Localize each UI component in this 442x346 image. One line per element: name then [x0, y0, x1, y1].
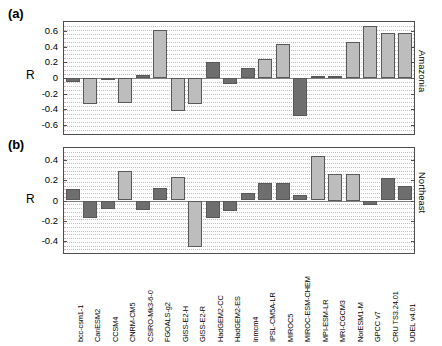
gridline [64, 223, 414, 224]
bar [83, 78, 97, 104]
panel-a-label: (a) [8, 6, 23, 21]
y-tick-mark [63, 94, 67, 95]
gridline [64, 163, 414, 164]
bar [188, 78, 202, 104]
gridline [64, 90, 414, 91]
y-tick-mark [63, 47, 67, 48]
bar [346, 174, 360, 200]
gridline [64, 246, 414, 247]
gridline [64, 174, 414, 175]
bar [381, 33, 395, 78]
y-tick-mark-right [411, 241, 415, 242]
gridline [64, 34, 414, 35]
y-tick-mark [63, 125, 67, 126]
x-tick-label: MRI-CGCM3 [338, 300, 347, 342]
region-label-amazonia: Amazonia [417, 50, 428, 92]
gridline [64, 42, 414, 43]
y-tick-mark-right [411, 109, 415, 110]
bar [118, 78, 132, 103]
x-tick-label: GPCC v7 [373, 311, 382, 342]
y-tick-label: 0 [25, 72, 58, 83]
y-tick-label: 0.4 [25, 41, 58, 52]
gridline [64, 126, 414, 127]
bar [293, 195, 307, 200]
bar [363, 26, 377, 78]
y-tick-mark-right [411, 201, 415, 202]
y-tick-mark [63, 78, 67, 79]
bar [136, 75, 150, 78]
y-tick-mark-right [411, 78, 415, 79]
gridline [64, 62, 414, 63]
panel-a-plot-area [63, 21, 415, 135]
x-tick-label: CCSM4 [111, 317, 120, 342]
y-tick-label: -0.4 [25, 235, 58, 246]
bar [136, 201, 150, 210]
panel-a-bars [64, 22, 414, 134]
gridline [64, 231, 414, 232]
gridline [64, 86, 414, 87]
bar [293, 78, 307, 116]
bar [311, 76, 325, 78]
y-tick-mark-right [411, 31, 415, 32]
gridline [64, 58, 414, 59]
gridline [64, 182, 414, 183]
y-tick-mark [63, 241, 67, 242]
bar [101, 201, 115, 209]
y-tick-mark-right [411, 125, 415, 126]
bar [171, 177, 185, 200]
gridline [64, 189, 414, 190]
y-tick-mark-right [411, 94, 415, 95]
bar [223, 78, 237, 84]
x-tick-label: MIROC-ESM-CHEM [303, 276, 312, 342]
bar [311, 156, 325, 200]
bar [276, 44, 290, 78]
y-tick-mark-right [411, 160, 415, 161]
bar [398, 186, 412, 200]
gridline [64, 114, 414, 115]
gridline [64, 193, 414, 194]
gridline [64, 216, 414, 217]
gridline [64, 238, 414, 239]
gridline [64, 227, 414, 228]
bar [153, 188, 167, 200]
y-tick-mark-right [411, 47, 415, 48]
panel-b-bars [64, 148, 414, 253]
y-tick-mark [63, 180, 67, 181]
bar [346, 42, 360, 78]
bar [66, 78, 80, 82]
panel-b-label: (b) [8, 137, 24, 152]
y-tick-mark-right [411, 180, 415, 181]
bar [153, 30, 167, 78]
bar [328, 174, 342, 200]
panel-b-plot-area [63, 147, 415, 254]
gridline [64, 152, 414, 153]
gridline [64, 102, 414, 103]
y-tick-label: -0.2 [25, 215, 58, 226]
bar [101, 78, 115, 80]
gridline [64, 122, 414, 123]
x-axis-labels: bcc-csm1-1CanESM2CCSM4CNRM-CM5CSIRO-Mk3-… [0, 256, 442, 346]
x-tick-label: IPSL-CM5A-LR [268, 292, 277, 342]
y-tick-mark [63, 160, 67, 161]
gridline [64, 70, 414, 71]
gridline [64, 30, 414, 31]
y-tick-mark [63, 201, 67, 202]
zero-baseline [64, 78, 414, 79]
bar [66, 189, 80, 200]
zero-baseline [64, 201, 414, 202]
gridline [64, 167, 414, 168]
gridline [64, 106, 414, 107]
bar [258, 59, 272, 78]
x-tick-label: FGOALS-g2 [163, 302, 172, 342]
x-tick-label: bcc-csm1-1 [76, 305, 85, 342]
bar [206, 62, 220, 78]
gridline [64, 50, 414, 51]
gridline [64, 249, 414, 250]
y-tick-mark [63, 109, 67, 110]
gridline [64, 204, 414, 205]
x-tick-label: HadGEM2-ES [233, 296, 242, 342]
x-tick-label: MIROC5 [286, 314, 295, 342]
gridline [64, 82, 414, 83]
bar [241, 68, 255, 78]
gridline [64, 118, 414, 119]
